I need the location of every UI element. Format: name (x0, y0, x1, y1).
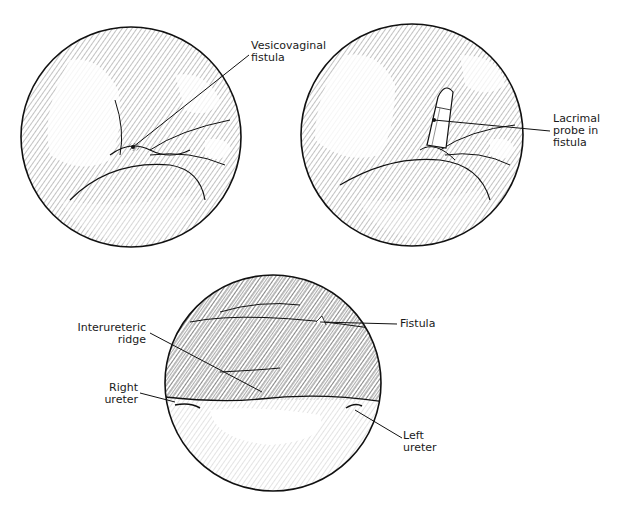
figure-canvas (0, 0, 617, 513)
label-line: Fistula (400, 318, 435, 330)
label-left-ureter: Left ureter (403, 430, 437, 454)
label-line: fistula (251, 52, 326, 64)
panel-top-left (21, 27, 249, 247)
panel-top-right (301, 24, 550, 246)
label-interureteric-ridge: Interureteric ridge (66, 322, 146, 346)
label-right-ureter: Right ureter (96, 382, 138, 406)
label-line: ureter (96, 394, 138, 406)
label-line: fistula (553, 137, 600, 149)
label-fistula: Fistula (400, 318, 435, 330)
label-line: ridge (66, 334, 146, 346)
label-vesicovaginal-fistula: Vesicovaginal fistula (251, 40, 326, 64)
panel-bottom (140, 270, 402, 500)
label-lacrimal-probe: Lacrimal probe in fistula (553, 113, 600, 149)
label-line: ureter (403, 442, 437, 454)
